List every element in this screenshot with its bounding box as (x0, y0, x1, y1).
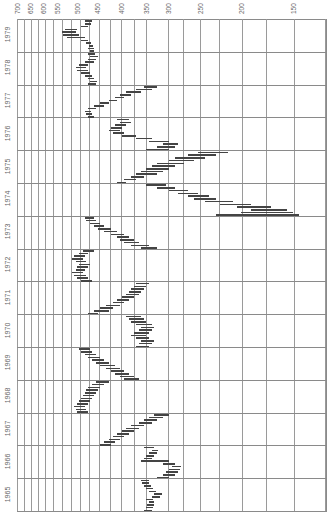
x-tick-label: 250 (197, 3, 204, 14)
range-bar (144, 86, 157, 88)
range-bar (94, 310, 108, 312)
vertical-gridline (266, 19, 267, 511)
year-label: 1970 (4, 320, 11, 340)
vertical-gridline (17, 19, 18, 511)
range-bar (149, 141, 169, 143)
range-bar (88, 53, 95, 55)
range-bar (98, 228, 111, 230)
range-bar (146, 455, 154, 457)
range-bar (216, 214, 299, 216)
range-bar (79, 264, 90, 266)
range-bar (104, 441, 115, 443)
range-bar (88, 116, 94, 118)
range-bar (90, 223, 100, 225)
vertical-gridline (146, 19, 147, 511)
year-label: 1971 (4, 287, 11, 307)
range-bar (131, 335, 146, 337)
year-label: 1974 (4, 189, 11, 209)
range-bar (136, 337, 149, 339)
range-bar (117, 182, 126, 184)
range-bar (149, 417, 163, 419)
x-tick-label: 300 (165, 3, 172, 14)
range-bar (88, 313, 98, 315)
range-bar (89, 45, 93, 47)
range-bar (85, 111, 91, 113)
range-bar (65, 29, 77, 31)
range-bar (117, 236, 129, 238)
range-bar (126, 316, 141, 318)
range-bar (90, 50, 94, 52)
range-bar (100, 365, 115, 367)
vertical-gridline (325, 19, 326, 511)
range-bar (115, 124, 126, 126)
range-bar (122, 430, 134, 432)
x-tick-label: 600 (40, 3, 47, 14)
range-bar (120, 94, 132, 96)
range-bar (85, 61, 95, 63)
vertical-gridline (110, 19, 111, 511)
range-bar (126, 294, 138, 296)
range-bar (83, 395, 94, 397)
vertical-gridline (242, 19, 243, 511)
range-bar (163, 143, 178, 145)
range-bar (146, 184, 165, 186)
vertical-gridline (219, 19, 220, 511)
range-bar (152, 496, 160, 498)
range-bar (139, 329, 152, 331)
range-bar (72, 258, 83, 260)
range-bar (113, 436, 124, 438)
year-label: 1972 (4, 255, 11, 275)
vertical-gridline (45, 19, 46, 511)
range-bar (117, 299, 129, 301)
vertical-gridline (53, 19, 54, 511)
range-bar (220, 204, 250, 206)
range-bar (188, 195, 209, 197)
range-bar (141, 247, 157, 249)
range-bar (86, 42, 91, 44)
range-bar (205, 201, 233, 203)
range-bar (172, 466, 181, 468)
range-bar (147, 504, 153, 506)
range-bar (96, 381, 108, 383)
range-bar (85, 392, 97, 394)
range-bar (92, 359, 104, 361)
horizontal-gridline (17, 380, 326, 381)
range-bar (136, 324, 152, 326)
range-bar (188, 154, 217, 156)
plot-frame (17, 19, 327, 512)
range-bar (251, 209, 287, 211)
year-label: 1975 (4, 156, 11, 176)
range-bar (74, 275, 87, 277)
vertical-gridline (38, 19, 39, 511)
range-bar (124, 242, 139, 244)
range-bar (81, 72, 90, 74)
horizontal-gridline (17, 281, 326, 282)
range-bar (152, 450, 159, 452)
range-bar (126, 428, 138, 430)
range-bar (131, 245, 149, 247)
range-bar (129, 291, 141, 293)
range-bar (96, 362, 108, 364)
range-bar (94, 225, 104, 227)
range-bar (109, 439, 120, 441)
range-bar (149, 452, 157, 454)
range-bar (113, 302, 124, 304)
range-bar (100, 444, 110, 446)
range-bar (139, 343, 152, 345)
vertical-gridline (99, 19, 100, 511)
year-label: 1967 (4, 419, 11, 439)
horizontal-gridline (17, 445, 326, 446)
range-bar (134, 332, 149, 334)
range-bar (144, 510, 152, 512)
range-bar (100, 307, 113, 309)
range-bar (126, 91, 141, 93)
range-bar (81, 351, 92, 353)
range-bar (157, 187, 175, 189)
x-tick-label: 700 (14, 3, 21, 14)
range-bar (85, 23, 92, 25)
range-bar (169, 160, 195, 162)
range-bar (74, 255, 85, 257)
range-bar (85, 354, 97, 356)
range-bar (166, 471, 178, 473)
vertical-gridline (31, 19, 32, 511)
